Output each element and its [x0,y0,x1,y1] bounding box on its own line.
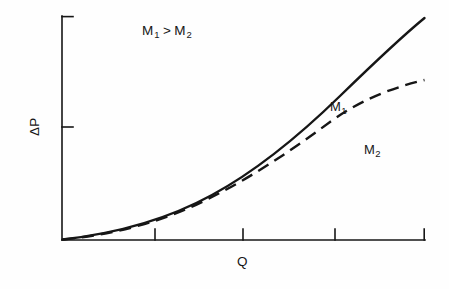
curve-label-m2-base: M [364,142,375,157]
curve-label-m1: M1 [330,100,347,115]
curve-m1-solid [63,18,425,240]
relation-annotation: M1>M2 [142,24,192,39]
y-axis-label: ΔP [28,104,42,150]
x-axis-label: Q [237,255,248,269]
relation-m2-base: M [174,23,186,38]
curve-label-m2-subscript: 2 [375,148,381,159]
relation-m1-base: M [142,23,154,38]
relation-operator: > [160,23,174,38]
curve-m2-dashed [63,80,425,240]
curve-label-m2: M2 [364,143,381,158]
relation-m2-subscript: 2 [186,29,192,40]
curve-label-m1-subscript: 1 [341,105,347,116]
figure-container: ΔP Q M1>M2 M1 M2 [0,0,449,289]
y-axis-label-wrapper: ΔP [18,110,52,150]
curve-label-m1-base: M [330,99,341,114]
relation-m1-subscript: 1 [154,29,160,40]
y-axis-label-var: P [27,117,42,126]
plot-canvas [0,0,449,289]
y-axis-label-delta: Δ [27,127,42,136]
